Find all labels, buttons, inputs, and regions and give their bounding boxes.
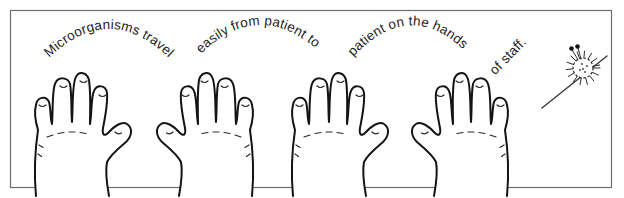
microbe-antenna-tip bbox=[575, 44, 580, 49]
microbe-antenna-tip bbox=[569, 46, 574, 51]
microbe-body bbox=[573, 58, 593, 78]
illustration-panel: Microorganisms travel easily from patien… bbox=[0, 0, 624, 198]
illustration-canvas: Microorganisms travel easily from patien… bbox=[0, 0, 624, 198]
